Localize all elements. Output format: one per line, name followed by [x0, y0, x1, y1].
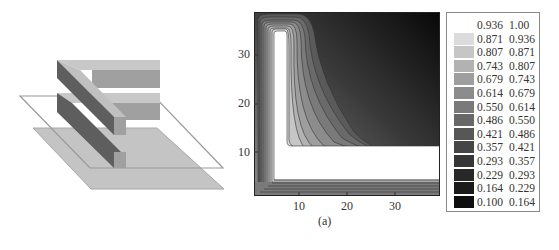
upper-spine-front	[114, 117, 126, 135]
legend-entry: 0.8710.936	[447, 32, 541, 46]
legend-range-low: 0.164	[477, 181, 503, 195]
x-tick-label: 30	[385, 199, 405, 214]
base-slab	[33, 128, 224, 189]
legend-range-low: 0.550	[477, 100, 503, 114]
legend-range-low: 0.100	[477, 195, 503, 209]
legend-range-low: 0.936	[477, 18, 503, 32]
legend-entry: 0.8070.871	[447, 45, 541, 59]
legend-swatch	[454, 141, 474, 153]
legend-entry: 0.4860.550	[447, 113, 541, 127]
legend-entry: 0.9361.00	[447, 18, 541, 32]
legend-swatch	[454, 114, 474, 126]
legend-range-low: 0.486	[477, 113, 503, 127]
legend-entry: 0.6790.743	[447, 72, 541, 86]
legend-swatch	[454, 87, 474, 99]
top-bar-front	[92, 70, 160, 88]
legend-entry: 0.2290.293	[447, 168, 541, 182]
legend-swatch	[454, 19, 474, 31]
legend-swatch	[454, 46, 474, 58]
lower-spine-front	[114, 152, 126, 168]
legend-range-high: 0.164	[509, 195, 535, 209]
legend-range-low: 0.743	[477, 59, 503, 73]
legend-range-high: 0.229	[509, 181, 535, 195]
legend-range-low: 0.807	[477, 45, 503, 59]
legend-range-low: 0.421	[477, 127, 503, 141]
legend-swatch	[454, 196, 474, 208]
legend-entry: 0.6140.679	[447, 86, 541, 100]
legend-swatch	[454, 101, 474, 113]
legend-entry: 0.1640.229	[447, 181, 541, 195]
legend-swatch	[454, 169, 474, 181]
y-tick-label: 10	[230, 145, 250, 160]
figure-caption: (a)	[318, 214, 331, 229]
y-tick-label: 30	[230, 47, 250, 62]
legend-range-low: 0.871	[477, 32, 503, 46]
legend-swatch	[454, 60, 474, 72]
legend-swatch	[454, 128, 474, 140]
legend-range-high: 1.00	[509, 18, 529, 32]
legend-range-high: 0.871	[509, 45, 535, 59]
legend-entry: 0.7430.807	[447, 59, 541, 73]
legend-entry: 0.3570.421	[447, 140, 541, 154]
legend-range-low: 0.679	[477, 72, 503, 86]
legend-range-high: 0.293	[509, 168, 535, 182]
legend-range-high: 0.614	[509, 100, 535, 114]
legend-range-low: 0.357	[477, 140, 503, 154]
legend-range-high: 0.550	[509, 113, 535, 127]
legend-range-high: 0.421	[509, 140, 535, 154]
contour-legend: 0.9361.000.8710.9360.8070.8710.7430.8070…	[446, 12, 540, 212]
contour-plot	[254, 12, 440, 196]
legend-entry: 0.4210.486	[447, 127, 541, 141]
legend-entry: 0.1000.164	[447, 195, 541, 209]
legend-swatch	[454, 155, 474, 167]
legend-range-high: 0.807	[509, 59, 535, 73]
legend-swatch	[454, 33, 474, 45]
legend-range-high: 0.936	[509, 32, 535, 46]
legend-entry: 0.2930.357	[447, 154, 541, 168]
legend-range-low: 0.229	[477, 168, 503, 182]
legend-range-low: 0.293	[477, 154, 503, 168]
y-tick-label: 20	[230, 96, 250, 111]
isometric-structure-diagram	[0, 0, 240, 250]
legend-range-high: 0.743	[509, 72, 535, 86]
x-tick-label: 10	[289, 199, 309, 214]
legend-swatch	[454, 73, 474, 85]
legend-range-low: 0.614	[477, 86, 503, 100]
legend-range-high: 0.357	[509, 154, 535, 168]
legend-range-high: 0.679	[509, 86, 535, 100]
legend-range-high: 0.486	[509, 127, 535, 141]
legend-swatch	[454, 182, 474, 194]
legend-entry: 0.5500.614	[447, 100, 541, 114]
x-tick-label: 20	[337, 199, 357, 214]
